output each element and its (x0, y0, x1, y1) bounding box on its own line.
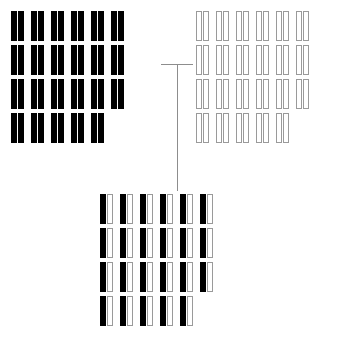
chromosome-bar-outline (236, 11, 242, 41)
chromosome-bar-outline (263, 79, 269, 109)
chromosome-bar-outline (196, 79, 202, 109)
bar-pair (140, 262, 153, 292)
chromosome-bar-outline (223, 113, 229, 143)
bar-pair (236, 11, 249, 41)
chromosome-bar-filled (111, 11, 117, 41)
chromosome-bar-outline (256, 79, 262, 109)
chromosome-bar-filled (51, 79, 57, 109)
chromosome-bar-filled (180, 296, 186, 326)
bar-row (100, 296, 193, 326)
chromosome-bar-outline (167, 262, 173, 292)
chromosome-bar-filled (140, 262, 146, 292)
chromosome-bar-filled (71, 113, 77, 143)
bar-pair (216, 11, 229, 41)
chromosome-bar-outline (276, 11, 282, 41)
bar-pair (296, 79, 309, 109)
chromosome-bar-outline (187, 262, 193, 292)
chromosome-bar-filled (98, 45, 104, 75)
chromosome-bar-filled (160, 228, 166, 258)
bar-pair (276, 113, 289, 143)
chromosome-bar-filled (120, 228, 126, 258)
bar-row (11, 79, 124, 109)
bar-pair (180, 228, 193, 258)
chromosome-bar-filled (160, 296, 166, 326)
bar-pair (100, 228, 113, 258)
chromosome-bar-filled (118, 11, 124, 41)
chromosome-bar-filled (91, 11, 97, 41)
bar-pair (11, 45, 24, 75)
bar-pair (11, 113, 24, 143)
chromosome-bar-filled (140, 296, 146, 326)
bar-pair (51, 45, 64, 75)
bar-row (100, 262, 213, 292)
chromosome-bar-filled (78, 11, 84, 41)
chromosome-bar-filled (91, 45, 97, 75)
chromosome-bar-filled (120, 262, 126, 292)
bar-pair (51, 11, 64, 41)
chromosome-bar-filled (18, 79, 24, 109)
chromosome-bar-outline (263, 45, 269, 75)
chromosome-bar-outline (256, 11, 262, 41)
bar-pair (100, 262, 113, 292)
chromosome-bar-filled (140, 194, 146, 224)
bar-pair (196, 113, 209, 143)
chromosome-bar-outline (236, 113, 242, 143)
chromosome-bar-filled (111, 79, 117, 109)
bar-row (100, 194, 213, 224)
bar-pair (256, 113, 269, 143)
connector-descent-line (177, 64, 178, 191)
chromosome-bar-filled (71, 45, 77, 75)
chromosome-bar-filled (38, 11, 44, 41)
bar-pair (180, 262, 193, 292)
bar-pair (236, 79, 249, 109)
chromosome-bar-outline (127, 296, 133, 326)
bar-pair (196, 79, 209, 109)
chromosome-bar-outline (243, 113, 249, 143)
bar-pair (160, 262, 173, 292)
bar-pair (11, 79, 24, 109)
bar-pair (120, 194, 133, 224)
chromosome-bar-outline (236, 79, 242, 109)
bar-pair (216, 113, 229, 143)
bar-pair (296, 45, 309, 75)
chromosome-bar-filled (51, 113, 57, 143)
bar-pair (160, 228, 173, 258)
chromosome-bar-filled (98, 113, 104, 143)
bar-pair (236, 113, 249, 143)
chromosome-bar-filled (180, 262, 186, 292)
bar-pair (120, 296, 133, 326)
bar-row (196, 45, 309, 75)
chromosome-bar-filled (180, 228, 186, 258)
bar-pair (200, 262, 213, 292)
bar-pair (31, 113, 44, 143)
chromosome-bar-outline (283, 79, 289, 109)
chromosome-bar-filled (200, 262, 206, 292)
bar-row (11, 11, 124, 41)
chromosome-bar-filled (18, 113, 24, 143)
chromosome-bar-outline (203, 11, 209, 41)
chromosome-bar-outline (243, 79, 249, 109)
bar-pair (51, 113, 64, 143)
chromosome-bar-outline (203, 113, 209, 143)
chromosome-bar-outline (263, 113, 269, 143)
bar-pair (216, 45, 229, 75)
chromosome-bar-outline (216, 11, 222, 41)
chromosome-bar-outline (147, 296, 153, 326)
chromosome-bar-filled (11, 11, 17, 41)
bar-row (196, 113, 289, 143)
bar-row (196, 79, 309, 109)
chromosome-bar-outline (207, 262, 213, 292)
chromosome-bar-outline (107, 194, 113, 224)
chromosome-bar-filled (91, 113, 97, 143)
chromosome-bar-outline (276, 113, 282, 143)
chromosome-bar-outline (216, 113, 222, 143)
chromosome-bar-filled (58, 11, 64, 41)
chromosome-bar-outline (243, 11, 249, 41)
bar-pair (111, 11, 124, 41)
chromosome-bar-outline (223, 45, 229, 75)
bar-pair (71, 11, 84, 41)
bar-pair (71, 79, 84, 109)
bar-pair (180, 194, 193, 224)
chromosome-bar-outline (256, 45, 262, 75)
chromosome-bar-filled (58, 45, 64, 75)
